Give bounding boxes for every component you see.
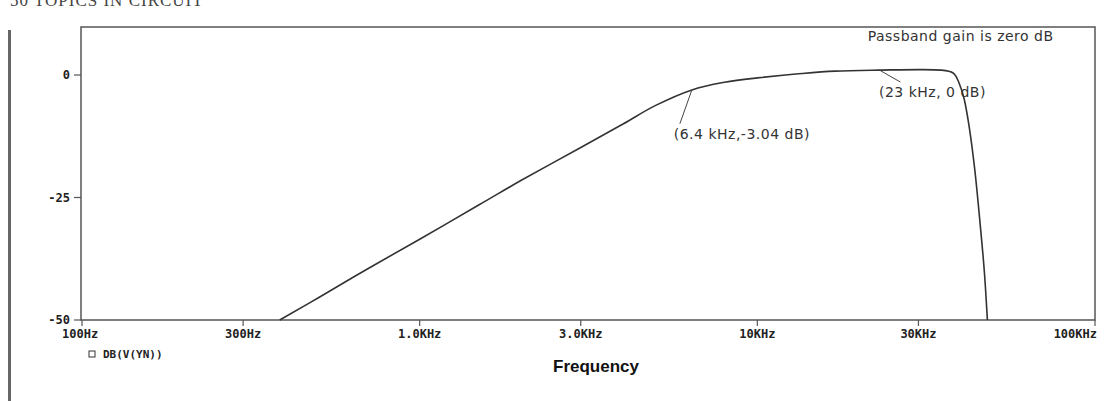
legend: DB(V(YN))	[89, 348, 163, 361]
bode-plot: 0-25-50 100Hz300Hz1.0KHz3.0KHz10KHz30KHz…	[0, 0, 1115, 401]
x-tick-label: 10KHz	[739, 327, 775, 341]
x-tick-label: 100Hz	[62, 327, 98, 341]
x-tick-label: 1.0KHz	[398, 327, 441, 341]
annotation-leader	[879, 70, 900, 82]
legend-label: DB(V(YN))	[103, 348, 163, 361]
x-tick-label: 300Hz	[225, 327, 261, 341]
y-tick-label: -50	[48, 313, 70, 327]
annotation-label: (23 kHz, 0 dB)	[879, 84, 986, 100]
x-tick-label: 3.0KHz	[559, 327, 602, 341]
x-axis: 100Hz300Hz1.0KHz3.0KHz10KHz30KHz100KHz	[62, 320, 1097, 341]
series-layer	[280, 70, 988, 320]
x-axis-title: Frequency	[553, 357, 640, 376]
x-tick-label: 100KHz	[1054, 327, 1097, 341]
y-tick-label: 0	[63, 68, 70, 82]
y-axis: 0-25-50	[48, 68, 81, 327]
x-tick-label: 30KHz	[900, 327, 936, 341]
y-tick-label: -25	[48, 191, 70, 205]
series-line-dbvyn	[280, 70, 988, 320]
annotation-leader	[680, 90, 692, 124]
annotations: Passband gain is zero dB(23 kHz, 0 dB)(6…	[674, 28, 1054, 142]
annotation-label: Passband gain is zero dB	[868, 28, 1054, 44]
legend-marker-square	[89, 351, 95, 357]
annotation-label: (6.4 kHz,-3.04 dB)	[674, 126, 810, 142]
